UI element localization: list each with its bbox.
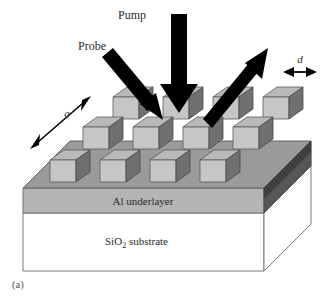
al-underlayer-label: Al underlayer bbox=[113, 195, 174, 207]
pitch-label: a bbox=[64, 107, 70, 119]
width-dimension-arrow bbox=[283, 67, 317, 77]
lattice-cube bbox=[263, 87, 303, 119]
width-label: d bbox=[297, 53, 303, 65]
nanostructure-diagram: Pump Probe a d Al underlayer SiO2 substr… bbox=[0, 0, 333, 298]
probe-label: Probe bbox=[78, 39, 106, 53]
pump-label: Pump bbox=[118, 8, 146, 22]
figure-caption: (a) bbox=[12, 279, 24, 291]
sio2-substrate-label-tail: substrate bbox=[126, 235, 168, 247]
figure-root: Pump Probe a d Al underlayer SiO2 substr… bbox=[0, 0, 333, 298]
sio2-substrate-label-main: SiO bbox=[105, 235, 122, 247]
